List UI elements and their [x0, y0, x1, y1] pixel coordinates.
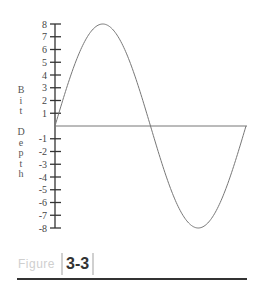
y-tick-label: -2: [39, 146, 47, 157]
y-axis-label-letter: B: [15, 85, 27, 96]
y-tick-label: -5: [39, 184, 47, 195]
y-axis-label-letter: D: [15, 127, 27, 138]
y-tick-label: 7: [42, 31, 47, 42]
y-tick-label: 8: [42, 19, 47, 30]
sine-wave-chart: 87654321-1-2-3-4-5-6-7-8: [0, 0, 258, 285]
y-axis-label: Bit Depth: [15, 85, 27, 180]
y-tick-label: -8: [39, 223, 47, 234]
y-tick-label: 1: [42, 108, 47, 119]
y-tick-label: -7: [39, 210, 47, 221]
y-tick-label: 3: [42, 82, 47, 93]
bottom-rule: [17, 278, 247, 280]
figure-word: Figure: [18, 257, 55, 271]
y-axis-label-letter: t: [15, 106, 27, 117]
y-axis-label-letter: h: [15, 169, 27, 180]
y-axis-label-letter: p: [15, 148, 27, 159]
y-tick-label: 6: [42, 44, 47, 55]
y-tick-label: 5: [42, 57, 47, 68]
figure-caption: Figure 3-3: [18, 252, 94, 276]
y-tick-label: -3: [39, 159, 47, 170]
y-tick-label: -1: [39, 133, 47, 144]
y-tick-label: -6: [39, 197, 47, 208]
figure-number: 3-3: [61, 253, 94, 275]
y-tick-label: 4: [42, 70, 47, 81]
y-tick-label: 2: [42, 95, 47, 106]
y-tick-label: -4: [39, 172, 47, 183]
